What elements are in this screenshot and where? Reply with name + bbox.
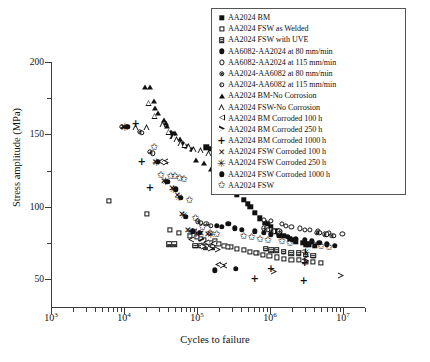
legend-label: AA6082-AA2024 at 80 mm/min xyxy=(228,46,333,57)
x-tick-minor xyxy=(248,308,249,312)
x-tick-minor xyxy=(73,308,74,312)
legend-item: AA2024 BM Corroded 250 h xyxy=(215,124,401,135)
x-tick-minor xyxy=(263,308,264,312)
x-tick-minor xyxy=(267,308,268,312)
legend-item: ✳AA2024 FSW Corroded 250 h xyxy=(215,157,401,168)
x-tick-minor xyxy=(314,308,315,312)
data-point: ✩ xyxy=(324,243,333,252)
x-tick-minor xyxy=(292,308,293,312)
data-point: + xyxy=(137,157,146,166)
data-point xyxy=(213,246,222,255)
legend-label: AA2024 BM xyxy=(228,12,270,23)
x-tick-minor xyxy=(241,308,242,312)
legend-item: +AA2024 BM Corroded 1000 h xyxy=(215,135,401,146)
legend-label: AA2024 BM Corroded 250 h xyxy=(228,124,322,135)
x-tick-minor xyxy=(181,308,182,312)
legend-label: AA6082-AA2024 at 115 mm/min xyxy=(228,57,336,68)
x-tick-minor xyxy=(113,308,114,312)
y-tick-label: 200 xyxy=(20,57,44,67)
legend-marker-square-filled-icon xyxy=(215,12,228,23)
legend-marker-square-open-icon xyxy=(215,23,228,34)
legend-marker-triangle-open-icon xyxy=(215,102,228,113)
x-tick-minor xyxy=(146,308,147,312)
x-tick-minor xyxy=(102,308,103,312)
legend-label: AA2024 FSW Corroded 100 h xyxy=(228,146,326,157)
legend-label: AA2024 BM Corroded 100 h xyxy=(228,113,322,124)
legend-item: ✕AA2024 FSW Corroded 100 h xyxy=(215,146,401,157)
x-tick-minor xyxy=(194,308,195,312)
y-tick-label: 100 xyxy=(20,202,44,212)
legend-marker-circle-half-icon xyxy=(215,79,228,90)
data-point xyxy=(243,199,252,208)
x-tick-minor xyxy=(121,308,122,312)
x-tick-minor xyxy=(168,308,169,312)
data-point: + xyxy=(267,264,276,273)
legend-item: AA2024-AA6082 at 115 mm/min xyxy=(215,79,401,90)
legend-label: AA2024 FSW xyxy=(228,180,274,191)
x-tick-minor xyxy=(305,308,306,312)
scatter-chart: 50100150200 103104105106107 +++++++✕✕✕✕✕… xyxy=(0,0,430,362)
data-point xyxy=(329,231,338,240)
data-point xyxy=(161,159,170,168)
legend-item: AA6082-AA2024 at 80 mm/min xyxy=(215,46,401,57)
data-point xyxy=(170,240,179,249)
legend: AA2024 BMAA2024 FSW as WeldedAA2024 FSW … xyxy=(211,8,406,195)
data-point xyxy=(153,157,162,166)
data-point xyxy=(124,123,133,132)
legend-marker-circle-plus-icon xyxy=(215,68,228,79)
legend-label: AA2024 FSW as Welded xyxy=(228,23,309,34)
x-tick-minor xyxy=(186,308,187,312)
legend-item: AA2024 BM Corroded 100 h xyxy=(215,113,401,124)
legend-label: AA2024 FSW Corroded 1000 h xyxy=(228,169,330,180)
legend-item: AA2024 FSW-No Corrosion xyxy=(215,102,401,113)
y-tick-label: 150 xyxy=(20,129,44,139)
data-point: ✩ xyxy=(285,238,294,247)
data-point xyxy=(251,249,260,258)
x-tick-minor xyxy=(190,308,191,312)
data-point xyxy=(219,262,228,271)
data-point xyxy=(146,82,155,91)
legend-label: AA2024 BM-No Corrosion xyxy=(228,90,316,101)
x-tick-minor xyxy=(117,308,118,312)
legend-marker-circle-open-icon xyxy=(215,57,228,68)
data-point xyxy=(143,209,152,218)
x-tick-label: 104 xyxy=(117,311,131,323)
data-point: ✩ xyxy=(156,170,165,179)
y-tick-label: 50 xyxy=(20,274,44,284)
x-tick-minor xyxy=(327,308,328,312)
legend-item: ✩AA2024 FSW xyxy=(215,180,401,191)
y-axis-title: Stress amplitude (MPa) xyxy=(11,58,22,258)
legend-marker-circle-ball-icon xyxy=(215,169,228,180)
legend-item: AA2024 BM-No Corrosion xyxy=(215,90,401,101)
x-tick-label: 107 xyxy=(336,311,350,323)
legend-label: AA2024-AA6082 at 80 mm/min xyxy=(228,68,333,79)
x-axis-title: Cycles to failure xyxy=(0,334,430,345)
x-tick-minor xyxy=(108,308,109,312)
legend-item: AA2024 FSW Corroded 1000 h xyxy=(215,169,401,180)
data-point xyxy=(172,185,181,194)
legend-marker-asterisk-icon: ✳ xyxy=(215,158,228,169)
legend-label: AA2024 FSW-No Corrosion xyxy=(228,102,320,113)
data-point: + xyxy=(146,183,155,192)
x-tick-minor xyxy=(259,308,260,312)
data-point: + xyxy=(299,276,308,285)
data-point: + xyxy=(250,275,259,284)
legend-marker-plus-icon: + xyxy=(215,135,228,146)
data-point xyxy=(224,220,233,229)
x-tick-minor xyxy=(219,308,220,312)
x-tick-minor xyxy=(175,308,176,312)
x-tick-minor xyxy=(86,308,87,312)
legend-marker-star-icon: ✩ xyxy=(215,180,228,191)
legend-item: AA2024-AA6082 at 80 mm/min xyxy=(215,68,401,79)
legend-item: AA2024 FSW as Welded xyxy=(215,23,401,34)
x-tick-minor xyxy=(365,308,366,312)
x-tick-label: 105 xyxy=(190,311,204,323)
legend-label: AA2024 FSW Corroded 250 h xyxy=(228,157,326,168)
legend-marker-triangle-left-icon xyxy=(215,113,228,124)
x-tick-minor xyxy=(332,308,333,312)
data-point: + xyxy=(300,259,309,268)
legend-marker-circle-filled-icon xyxy=(215,46,228,57)
data-point xyxy=(104,196,113,205)
legend-label: AA2024-AA6082 at 115 mm/min xyxy=(228,79,336,90)
x-tick-minor xyxy=(340,308,341,312)
